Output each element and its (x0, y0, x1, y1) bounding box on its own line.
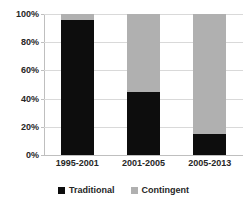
legend-item[interactable]: Contingent (131, 186, 190, 195)
y-axis-labels: 100%80%60%40%20%0% (0, 14, 44, 155)
x-axis-category-label: 1995-2001 (41, 158, 113, 169)
axis-baseline (44, 155, 243, 156)
y-axis-tick-label: 0% (26, 151, 39, 160)
bar-group[interactable] (193, 14, 226, 155)
bar-segment-traditional[interactable] (127, 92, 160, 155)
y-axis-tick (41, 42, 44, 43)
bar-segment-traditional[interactable] (61, 20, 94, 155)
y-axis-tick (41, 99, 44, 100)
plot-area (44, 14, 243, 155)
stacked-bar-chart: 100%80%60%40%20%0% 1995-20012001-2005200… (0, 0, 247, 204)
bar-group[interactable] (127, 14, 160, 155)
legend-swatch-icon (58, 187, 65, 194)
x-axis-category-label: 2005-2013 (174, 158, 246, 169)
legend-label: Contingent (142, 186, 190, 195)
legend-label: Traditional (69, 186, 115, 195)
y-axis-tick-label: 60% (21, 66, 39, 75)
y-axis-tick (41, 127, 44, 128)
y-axis-tick (41, 70, 44, 71)
legend-item[interactable]: Traditional (58, 186, 115, 195)
y-axis-tick (41, 14, 44, 15)
chart-legend: TraditionalContingent (0, 186, 247, 195)
bar-segment-contingent[interactable] (193, 14, 226, 134)
bar-segment-contingent[interactable] (61, 14, 94, 20)
x-axis-labels: 1995-20012001-20052005-2013 (44, 158, 243, 172)
y-axis-tick-label: 80% (21, 38, 39, 47)
y-axis-tick-label: 40% (21, 94, 39, 103)
y-axis-tick (41, 155, 44, 156)
y-axis-tick-label: 20% (21, 122, 39, 131)
legend-swatch-icon (131, 187, 138, 194)
bar-segment-traditional[interactable] (193, 134, 226, 155)
y-axis-tick-label: 100% (16, 10, 39, 19)
bar-group[interactable] (61, 14, 94, 155)
bar-segment-contingent[interactable] (127, 14, 160, 92)
x-axis-category-label: 2001-2005 (108, 158, 180, 169)
